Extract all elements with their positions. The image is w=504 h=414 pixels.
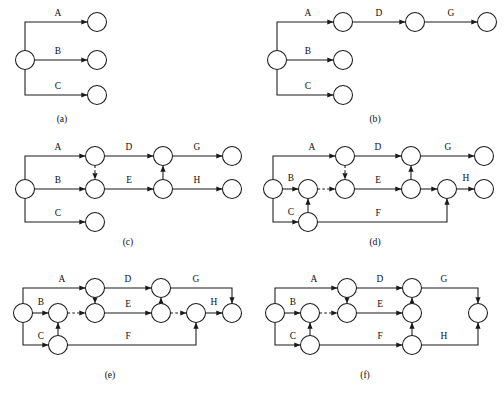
panel-f: ADGBECFH(f) xyxy=(266,274,488,381)
node-d-end xyxy=(402,147,421,166)
node-g-end xyxy=(478,13,497,32)
node-start xyxy=(264,180,283,199)
edge-b: B xyxy=(283,173,299,192)
edge-a: A xyxy=(23,274,86,304)
edge-label-b: B xyxy=(55,46,61,56)
edge-label-a: A xyxy=(55,8,62,18)
edge-c: C xyxy=(273,199,299,225)
node-g-end xyxy=(475,147,494,166)
edge-d: D xyxy=(355,142,402,159)
edge-label-d: D xyxy=(125,274,132,284)
node-a-end xyxy=(86,147,105,166)
edge-c: C xyxy=(25,199,86,225)
edge-dummy-9 xyxy=(320,310,338,315)
panel-caption-e: (e) xyxy=(105,369,116,381)
edge-dummy-10 xyxy=(409,298,414,304)
edge-dummy-12 xyxy=(409,323,414,336)
edge-label-d: D xyxy=(376,8,383,18)
edge-g: G xyxy=(171,274,235,304)
edge-h: H xyxy=(173,175,223,192)
node-d-end xyxy=(152,279,171,298)
node-a-end xyxy=(86,279,105,298)
node-d-end xyxy=(403,279,422,298)
panel-caption-b: (b) xyxy=(369,113,380,125)
edge-h: H xyxy=(422,323,481,346)
edge-dummy-8 xyxy=(160,166,165,180)
edge-label-e: E xyxy=(375,175,381,185)
edge-label-e: E xyxy=(125,299,131,309)
node-b2-end xyxy=(336,180,355,199)
edge-dummy-9 xyxy=(68,310,86,315)
edge-f: F xyxy=(318,199,450,223)
edge-b: B xyxy=(33,297,49,316)
node-g-end xyxy=(223,147,242,166)
node-e-end xyxy=(154,180,173,199)
edge-g: G xyxy=(425,8,478,25)
edge-a: A xyxy=(275,274,338,304)
node-a-end xyxy=(88,13,107,32)
node-f-join xyxy=(187,304,206,323)
edge-label-g: G xyxy=(194,142,201,152)
panel-caption-f: (f) xyxy=(360,369,370,381)
edge-a: A xyxy=(25,8,88,51)
edge-label-g: G xyxy=(448,8,455,18)
edge-label-a: A xyxy=(305,8,312,18)
edge-e: E xyxy=(355,175,402,192)
activity-network-figure: ABC(a)ADGBC(b)ADGBEHC(c)ADGBEHCF(d)ADGBE… xyxy=(0,0,504,414)
edge-label-g: G xyxy=(441,274,448,284)
edge-label-e: E xyxy=(377,299,383,309)
edge-dummy-11 xyxy=(307,323,312,336)
node-b-end xyxy=(88,51,107,70)
edge-label-d: D xyxy=(375,142,382,152)
node-e-end xyxy=(152,304,171,323)
edge-dummy-10 xyxy=(158,298,163,304)
edge-e: E xyxy=(357,299,403,316)
edge-a: A xyxy=(25,142,86,180)
edge-label-c: C xyxy=(55,81,61,91)
edge-dummy-9 xyxy=(318,186,336,191)
node-start xyxy=(268,51,287,70)
edge-d: D xyxy=(105,142,154,159)
edge-label-a: A xyxy=(55,142,62,152)
edge-dummy-8 xyxy=(342,166,347,180)
edge-dummy-8 xyxy=(92,297,97,303)
node-final xyxy=(223,304,242,323)
edge-h: H xyxy=(457,173,475,192)
edge-label-b: B xyxy=(55,175,61,185)
node-a-end xyxy=(338,279,357,298)
node-h-end xyxy=(475,180,494,199)
edge-b: B xyxy=(35,46,88,63)
edge-label-h: H xyxy=(194,175,201,185)
edge-dummy-10 xyxy=(408,166,413,180)
node-start xyxy=(16,180,35,199)
edge-d: D xyxy=(357,274,403,291)
edge-label-h: H xyxy=(463,173,470,183)
figure-sheet: ABC(a)ADGBC(b)ADGBEHC(c)ADGBEHCF(d)ADGBE… xyxy=(0,0,504,414)
node-d-end xyxy=(154,147,173,166)
edge-h: H xyxy=(206,297,223,316)
edge-label-h: H xyxy=(211,297,218,307)
node-start xyxy=(14,304,33,323)
edge-dummy-8 xyxy=(344,297,349,303)
edge-label-c: C xyxy=(55,208,61,218)
panel-e: ADGBEHCF(e) xyxy=(14,274,242,381)
edge-label-a: A xyxy=(309,142,316,152)
edge-dummy-12 xyxy=(421,186,438,191)
edge-g: G xyxy=(421,142,475,159)
edge-a: A xyxy=(277,8,334,51)
edge-label-d: D xyxy=(377,274,384,284)
edge-label-f: F xyxy=(125,331,130,341)
edge-g: G xyxy=(173,142,223,159)
edge-f: F xyxy=(68,323,199,346)
node-c-end xyxy=(299,213,318,232)
panel-d: ADGBEHCF(d) xyxy=(264,142,494,248)
node-e-end xyxy=(402,180,421,199)
edge-label-e: E xyxy=(126,175,132,185)
edge-label-c: C xyxy=(305,81,311,91)
panel-caption-c: (c) xyxy=(123,236,134,248)
panel-c: ADGBEHC(c) xyxy=(16,142,242,248)
panel-caption-d: (d) xyxy=(369,236,380,248)
edge-b: B xyxy=(287,46,334,63)
node-e-end xyxy=(403,304,422,323)
node-b2-end xyxy=(338,304,357,323)
